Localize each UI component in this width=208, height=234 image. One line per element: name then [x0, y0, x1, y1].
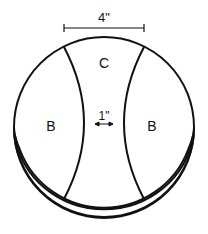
- right-arc-boundary: [124, 47, 144, 199]
- region-label-top: C: [99, 55, 109, 71]
- left-arc-boundary: [64, 47, 84, 199]
- disc-rim-bottom: [15, 136, 193, 209]
- width-dimension: [64, 24, 144, 32]
- diagram-canvas: 4" 1" C B B: [0, 0, 208, 234]
- disc-rim: [14, 128, 194, 218]
- width-dimension-label: 4": [98, 10, 110, 25]
- gap-dimension-label: 1": [99, 109, 110, 123]
- region-label-left: B: [46, 118, 55, 134]
- region-label-right: B: [147, 118, 156, 134]
